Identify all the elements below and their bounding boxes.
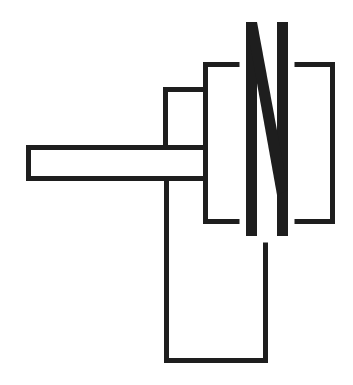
background bbox=[0, 0, 353, 385]
diagram-canvas bbox=[0, 0, 353, 385]
n-right-stroke bbox=[277, 22, 288, 236]
